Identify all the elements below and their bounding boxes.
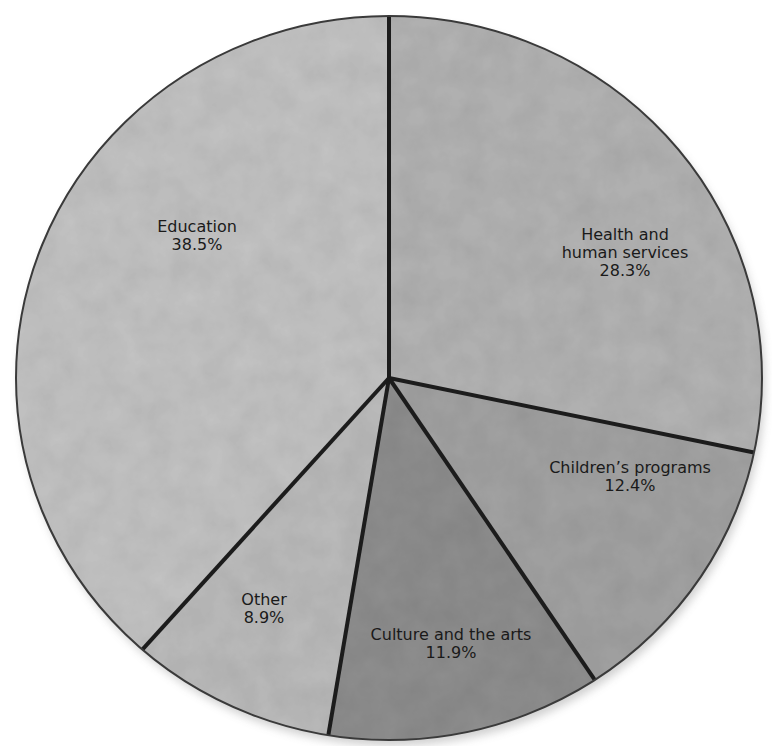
pie-slice-health-and-human-services <box>389 16 762 453</box>
pie-chart: Health andhuman services28.3%Children’s … <box>0 0 772 746</box>
slice-label: Other8.9% <box>241 590 287 627</box>
